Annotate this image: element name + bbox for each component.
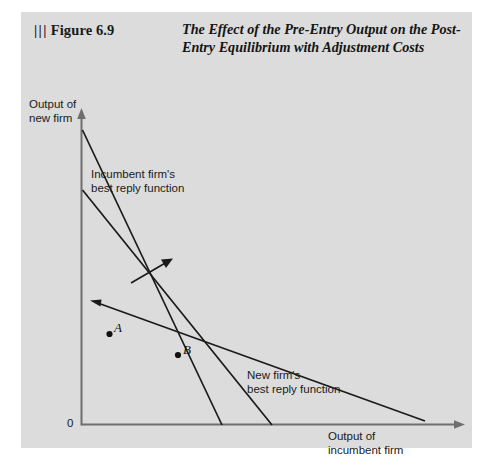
newfirm-brf-line	[95, 302, 425, 421]
equilibrium-point-a-label: A	[114, 320, 122, 336]
figure-title: The Effect of the Pre-Entry Output on th…	[182, 21, 462, 56]
equilibrium-point-b-marker	[175, 352, 181, 358]
origin-label: 0	[67, 417, 73, 429]
shift-arrow	[131, 259, 173, 284]
newfirm-brf-annotation: New firm's best reply function	[247, 369, 340, 396]
incumbent-brf-annotation: Incumbent firm's best reply function	[91, 168, 184, 195]
figure-panel: |||Figure 6.9 The Effect of the Pre-Entr…	[21, 12, 472, 448]
plot-area: Output of new firm Output of incumbent f…	[21, 90, 472, 448]
figure-number: |||Figure 6.9	[34, 22, 114, 39]
y-axis-arrowhead	[77, 108, 86, 119]
figure-rule-glyph: |||	[34, 22, 48, 39]
newfirm-brf-arrowhead	[90, 300, 102, 307]
y-axis-label: Output of new firm	[29, 98, 76, 125]
figure-number-label: Figure 6.9	[51, 22, 115, 38]
figure-header: |||Figure 6.9 The Effect of the Pre-Entr…	[21, 12, 472, 90]
x-axis-label: Output of incumbent firm	[328, 430, 403, 457]
equilibrium-point-a-marker	[106, 331, 112, 337]
equilibrium-point-b-label: B	[183, 342, 191, 358]
x-axis-arrowhead	[454, 420, 465, 429]
